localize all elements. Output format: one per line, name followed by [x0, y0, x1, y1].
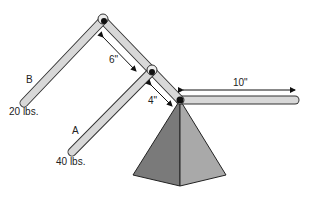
pyramid-fulcrum	[133, 100, 226, 186]
dimension-horizontal-label: 10"	[233, 78, 248, 88]
fulcrum-pivot	[177, 97, 184, 104]
dimension-upper-label: 6"	[109, 55, 118, 65]
weight-a-label: 40 lbs.	[56, 157, 85, 167]
top-joint	[98, 14, 108, 24]
arm-b	[24, 20, 103, 103]
weight-b-label: 20 lbs.	[9, 107, 38, 117]
dimension-lower-label: 4"	[148, 96, 157, 106]
middle-joint	[147, 65, 157, 75]
arm-a-label: A	[72, 126, 79, 136]
arm-b-label: B	[26, 75, 33, 85]
arm-a	[72, 71, 152, 152]
